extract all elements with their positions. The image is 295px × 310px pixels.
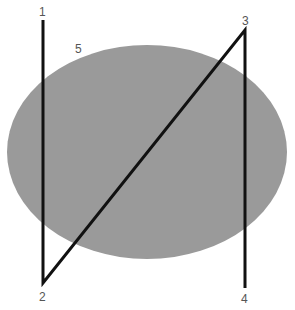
figure-canvas: 1 2 3 4 5 — [0, 0, 295, 310]
label-1: 1 — [39, 5, 46, 19]
label-5: 5 — [75, 42, 82, 56]
label-3: 3 — [242, 14, 249, 28]
label-4: 4 — [241, 292, 248, 306]
label-2: 2 — [39, 290, 46, 304]
diagram-svg: 1 2 3 4 5 — [0, 0, 295, 310]
